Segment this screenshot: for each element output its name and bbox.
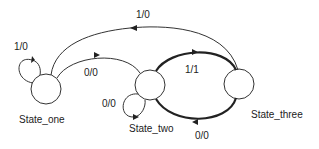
transition-label-s3-s2: 0/0	[195, 131, 209, 141]
state-one-node	[31, 74, 61, 104]
transition-label-s3-s1: 1/0	[136, 10, 150, 20]
transition-s3-s1	[51, 27, 238, 75]
arrowhead	[133, 114, 139, 120]
transition-label-s1-self: 1/0	[14, 42, 28, 52]
arrowhead	[192, 119, 198, 125]
state-label-two: State_two	[129, 124, 173, 134]
transition-s3-s2	[156, 98, 236, 119]
state-two-node	[135, 70, 165, 100]
state-three-node	[224, 69, 254, 99]
transition-label-s2-s3: 1/1	[185, 65, 199, 75]
transition-label-s2-self: 0/0	[102, 99, 116, 109]
arrowhead	[94, 52, 100, 58]
arrowhead	[192, 49, 198, 55]
state-label-three: State_three	[251, 110, 303, 120]
arrowhead	[130, 25, 137, 31]
arrowhead	[31, 56, 35, 63]
state-label-one: State_one	[19, 115, 65, 125]
transition-s1-s2	[57, 58, 140, 78]
transition-label-s1-s2: 0/0	[84, 68, 98, 78]
